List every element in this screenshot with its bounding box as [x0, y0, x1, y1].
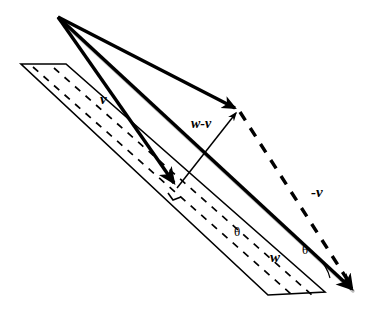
upper-edge-line — [58, 17, 235, 108]
vector-w-minus-v-label: w-v — [191, 117, 211, 131]
angle-theta-right-label: θ — [302, 243, 308, 256]
vector-negative-v-label: -v — [311, 185, 323, 200]
vector-diagram-canvas — [0, 0, 378, 313]
vector-w-label: w — [270, 250, 280, 265]
angle-theta-left-label: θ — [234, 225, 240, 238]
vector-diagram-figure: v w w-v -v θ θ — [0, 0, 378, 313]
plane-dashed-line-upper — [33, 67, 291, 294]
right-angle-tick — [168, 193, 181, 200]
vector-v-label: v — [100, 92, 107, 107]
vector-v-line — [58, 17, 174, 183]
